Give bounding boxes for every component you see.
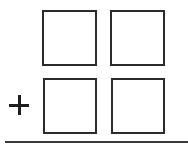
digit-box-row2-ones[interactable] — [111, 78, 165, 134]
answer-line — [5, 141, 188, 143]
plus-sign-icon — [9, 95, 29, 115]
digit-box-row2-tens[interactable] — [43, 78, 97, 134]
digit-box-row1-ones[interactable] — [110, 10, 165, 66]
digit-box-row1-tens[interactable] — [42, 10, 97, 66]
